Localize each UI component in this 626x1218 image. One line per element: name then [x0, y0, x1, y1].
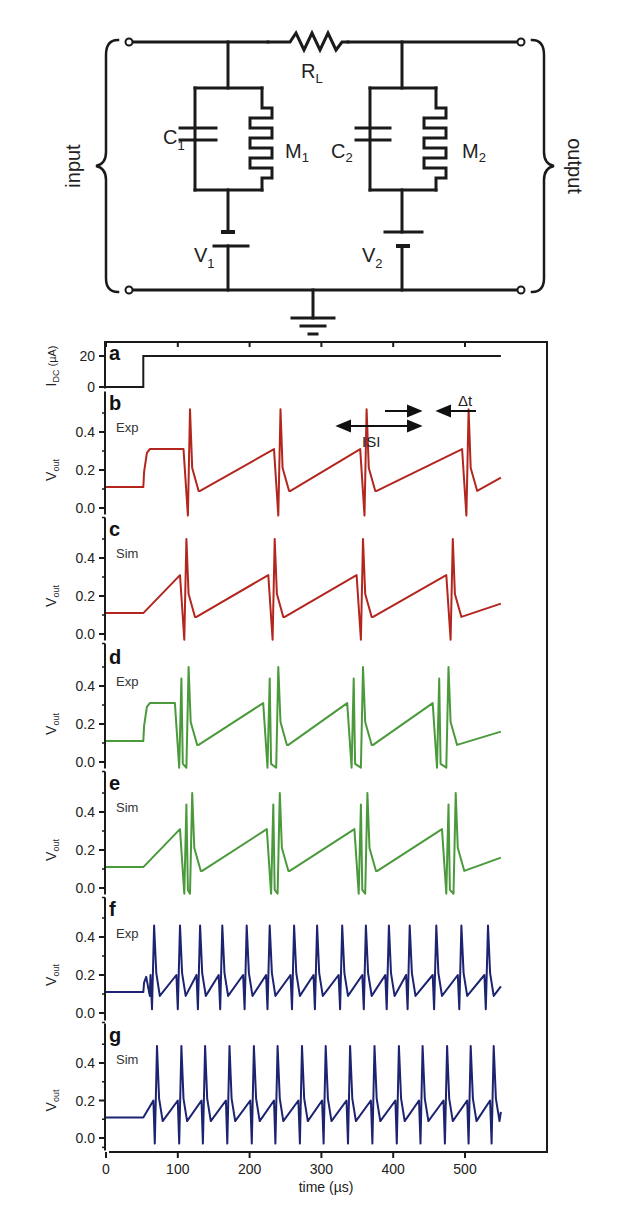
current-trace [106, 356, 501, 387]
panel-b: bExp0.40.20.0Vout [43, 392, 501, 518]
ground-icon [292, 290, 334, 334]
vout-trace [106, 539, 501, 640]
y-tick-label: 0.0 [76, 754, 96, 770]
y-axis-title: Vout [43, 964, 61, 986]
figure-canvas: input output RL C1 M1 C2 M2 V1 V2 a200ID… [0, 0, 626, 1218]
panel-e: eSim0.40.20.0Vout [43, 772, 501, 898]
figure: input output RL C1 M1 C2 M2 V1 V2 a200ID… [0, 0, 626, 1218]
y-tick-label: 0.0 [76, 1005, 96, 1021]
capacitor-icon [356, 128, 390, 140]
isi-label: ISI [362, 433, 380, 450]
vout-trace [106, 926, 501, 1010]
x-axis-title: time (µs) [299, 1179, 354, 1195]
panel-label: d [109, 646, 121, 668]
panel-label: a [109, 342, 121, 364]
panel-label: e [109, 772, 120, 794]
condition-label: Exp [116, 674, 138, 689]
condition-label: Exp [116, 420, 138, 435]
panel-a: a200IDC (µA) [43, 342, 501, 395]
resistor-icon [268, 33, 348, 50]
panel-label: g [109, 1024, 121, 1046]
m1-label: M1 [285, 140, 309, 165]
vout-trace [106, 1046, 501, 1144]
y-tick-label: 0.2 [76, 842, 96, 858]
y-axis-title: Vout [43, 459, 61, 481]
brace-icon [96, 40, 554, 292]
y-tick-label: 0.0 [76, 626, 96, 642]
y-axis-title: Vout [43, 585, 61, 607]
condition-label: Sim [116, 546, 138, 561]
y-tick-label: 0.2 [76, 1093, 96, 1109]
vout-trace [106, 667, 501, 768]
y-tick-label: 0.4 [76, 804, 96, 820]
panel-label: c [109, 518, 120, 540]
y-tick-label: 0.4 [76, 424, 96, 440]
isi-annotation [338, 406, 476, 431]
panel-d: dExp0.40.20.0Vout [43, 646, 501, 772]
y-tick-label: 0.2 [76, 716, 96, 732]
condition-label: Sim [116, 1052, 138, 1067]
y-tick-label: 0.0 [76, 500, 96, 516]
dt-label: Δt [458, 392, 473, 409]
terminal-icon [126, 39, 525, 294]
y-tick-label: 0.4 [76, 929, 96, 945]
y-tick-label: 0.2 [76, 462, 96, 478]
panel-g: gSim0.40.20.0Vout [43, 1024, 501, 1152]
panel-f: fExp0.40.20.0Vout [43, 898, 501, 1023]
y-tick-label: 0.2 [76, 588, 96, 604]
y-tick-label: 0.2 [76, 967, 96, 983]
battery-icon [385, 232, 422, 246]
y-tick-label: 0.0 [76, 880, 96, 896]
vout-trace [106, 409, 501, 515]
plot-stack: a200IDC (µA)bExp0.40.20.0VoutcSim0.40.20… [43, 342, 547, 1152]
y-axis-title: Vout [43, 839, 61, 861]
input-label: input [62, 144, 84, 188]
x-tick-label: 300 [310, 1161, 334, 1177]
panel-c: cSim0.40.20.0Vout [43, 518, 501, 644]
y-tick-label: 0.4 [76, 1055, 96, 1071]
y-tick-label: 0.4 [76, 678, 96, 694]
y-axis-title: IDC (µA) [43, 346, 61, 387]
x-tick-label: 100 [166, 1161, 190, 1177]
panel-label: b [109, 392, 121, 414]
vout-trace [106, 793, 501, 894]
y-tick-label: 0.4 [76, 550, 96, 566]
x-tick-label: 500 [453, 1161, 477, 1177]
v2-label: V2 [362, 244, 383, 271]
output-label: output [564, 138, 586, 194]
x-axis: 0100200300400500 [102, 342, 477, 1177]
y-axis-title: Vout [43, 713, 61, 735]
circuit-diagram [96, 33, 554, 334]
x-tick-label: 0 [102, 1161, 110, 1177]
capacitor-icon [180, 128, 216, 140]
y-tick-label: 20 [79, 348, 95, 364]
v1-label: V1 [194, 244, 215, 271]
rl-label: RL [301, 60, 323, 86]
memristor-icon [250, 88, 272, 190]
c2-label: C2 [331, 140, 353, 165]
condition-label: Exp [116, 926, 138, 941]
panel-label: f [109, 898, 116, 920]
y-axis-title: Vout [43, 1089, 61, 1111]
memristor-icon [424, 88, 446, 190]
battery-icon [214, 232, 248, 246]
x-tick-label: 200 [238, 1161, 262, 1177]
c1-label: C1 [163, 126, 185, 153]
x-tick-label: 400 [382, 1161, 406, 1177]
y-tick-label: 0.0 [76, 1130, 96, 1146]
condition-label: Sim [116, 800, 138, 815]
m2-label: M2 [462, 140, 486, 165]
y-tick-label: 0 [87, 379, 95, 395]
